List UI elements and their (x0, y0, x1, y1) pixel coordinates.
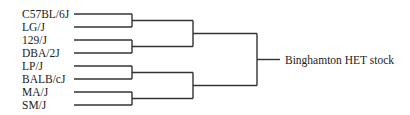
leaf-label: LG/J (22, 21, 46, 33)
leaf-label: DBA/2J (22, 47, 60, 59)
leaf-label: MA/J (22, 86, 49, 98)
root-label: Binghamton HET stock (285, 54, 394, 67)
leaf-label: LP/J (22, 60, 44, 72)
leaf-label: C57BL/6J (22, 8, 70, 20)
dendrogram: C57BL/6JLG/J129/JDBA/2JLP/JBALB/cJMA/JSM… (0, 0, 410, 115)
leaf-label: SM/J (22, 99, 47, 111)
leaf-label: 129/J (22, 34, 47, 46)
leaf-label: BALB/cJ (22, 73, 66, 85)
